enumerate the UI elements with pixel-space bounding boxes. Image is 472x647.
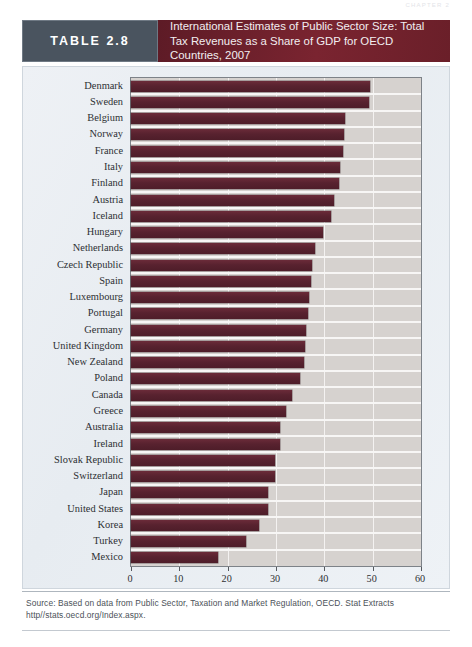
row-separator xyxy=(131,305,421,307)
x-axis-tick xyxy=(131,567,132,571)
bar xyxy=(131,552,218,563)
category-label: Netherlands xyxy=(22,242,128,253)
category-label: Turkey xyxy=(22,535,128,546)
source-note: Source: Based on data from Public Sector… xyxy=(26,597,450,621)
bar xyxy=(131,243,315,254)
bar xyxy=(131,195,334,206)
category-label: France xyxy=(22,145,128,156)
source-divider-bottom xyxy=(22,630,450,631)
chart-card: DenmarkSwedenBelgiumNorwayFranceItalyFin… xyxy=(22,66,450,589)
table-number-block: TABLE 2.8 xyxy=(22,20,158,62)
bar xyxy=(131,276,311,287)
row-separator xyxy=(131,484,421,486)
row-separator xyxy=(131,337,421,339)
x-axis-label: 50 xyxy=(367,573,377,584)
bar xyxy=(131,113,345,124)
chart-plot-area xyxy=(130,77,422,567)
bar xyxy=(131,471,275,482)
category-label: Spain xyxy=(22,275,128,286)
bar xyxy=(131,325,306,336)
row-separator xyxy=(131,435,421,437)
x-axis-label: 10 xyxy=(173,573,183,584)
category-label: Hungary xyxy=(22,226,128,237)
bar xyxy=(131,81,370,92)
bar xyxy=(131,129,344,140)
bar xyxy=(131,178,339,189)
bar xyxy=(131,520,259,531)
category-label: United States xyxy=(22,503,128,514)
category-label: Sweden xyxy=(22,96,128,107)
category-label: Italy xyxy=(22,161,128,172)
category-label: Korea xyxy=(22,519,128,530)
bar xyxy=(131,487,268,498)
row-separator xyxy=(131,451,421,453)
x-axis-label: 60 xyxy=(415,573,425,584)
category-label: Australia xyxy=(22,421,128,432)
x-axis-tick xyxy=(228,567,229,571)
row-separator xyxy=(131,158,421,160)
bar xyxy=(131,292,309,303)
bar xyxy=(131,341,305,352)
bar xyxy=(131,162,340,173)
table-figure-page: CHAPTER 2 TABLE 2.8 International Estima… xyxy=(0,0,472,647)
table-title: International Estimates of Public Sector… xyxy=(170,19,440,63)
category-label: Slovak Republic xyxy=(22,454,128,465)
row-separator xyxy=(131,142,421,144)
bar xyxy=(131,504,268,515)
bar xyxy=(131,390,292,401)
row-separator xyxy=(131,419,421,421)
row-separator xyxy=(131,93,421,95)
table-number-label: TABLE 2.8 xyxy=(50,34,130,48)
x-axis-label: 30 xyxy=(270,573,280,584)
x-axis-tick xyxy=(179,567,180,571)
row-separator xyxy=(131,207,421,209)
category-label: Poland xyxy=(22,372,128,383)
x-axis-label: 0 xyxy=(127,573,132,584)
bar xyxy=(131,406,286,417)
row-separator xyxy=(131,370,421,372)
row-separator xyxy=(131,402,421,404)
bar xyxy=(131,455,275,466)
row-separator xyxy=(131,532,421,534)
bar xyxy=(131,536,246,547)
bar xyxy=(131,146,343,157)
row-separator xyxy=(131,256,421,258)
bar xyxy=(131,97,369,108)
category-label: Finland xyxy=(22,177,128,188)
running-head: CHAPTER 2 xyxy=(0,2,472,14)
source-divider-top xyxy=(22,591,450,592)
bar xyxy=(131,422,280,433)
category-label: Norway xyxy=(22,128,128,139)
table-title-block: International Estimates of Public Sector… xyxy=(158,20,450,62)
category-label: United Kingdom xyxy=(22,340,128,351)
row-separator xyxy=(131,126,421,128)
bar xyxy=(131,357,304,368)
bar xyxy=(131,373,300,384)
category-label: Greece xyxy=(22,405,128,416)
category-label: Czech Republic xyxy=(22,259,128,270)
category-label: Austria xyxy=(22,194,128,205)
category-label: Iceland xyxy=(22,210,128,221)
category-label: Portugal xyxy=(22,307,128,318)
row-separator xyxy=(131,272,421,274)
x-axis-tick xyxy=(324,567,325,571)
category-label: Denmark xyxy=(22,80,128,91)
row-separator xyxy=(131,354,421,356)
row-separator xyxy=(131,110,421,112)
bar xyxy=(131,308,308,319)
row-separator xyxy=(131,500,421,502)
category-label: Japan xyxy=(22,486,128,497)
category-label: Belgium xyxy=(22,112,128,123)
x-axis-label: 20 xyxy=(222,573,232,584)
row-separator xyxy=(131,288,421,290)
row-separator xyxy=(131,175,421,177)
bar xyxy=(131,260,312,271)
category-label: Switzerland xyxy=(22,470,128,481)
row-separator xyxy=(131,240,421,242)
category-label: Luxembourg xyxy=(22,291,128,302)
x-axis-tick xyxy=(373,567,374,571)
x-axis-tick xyxy=(276,567,277,571)
bar xyxy=(131,227,323,238)
category-label: Germany xyxy=(22,324,128,335)
bar xyxy=(131,211,331,222)
